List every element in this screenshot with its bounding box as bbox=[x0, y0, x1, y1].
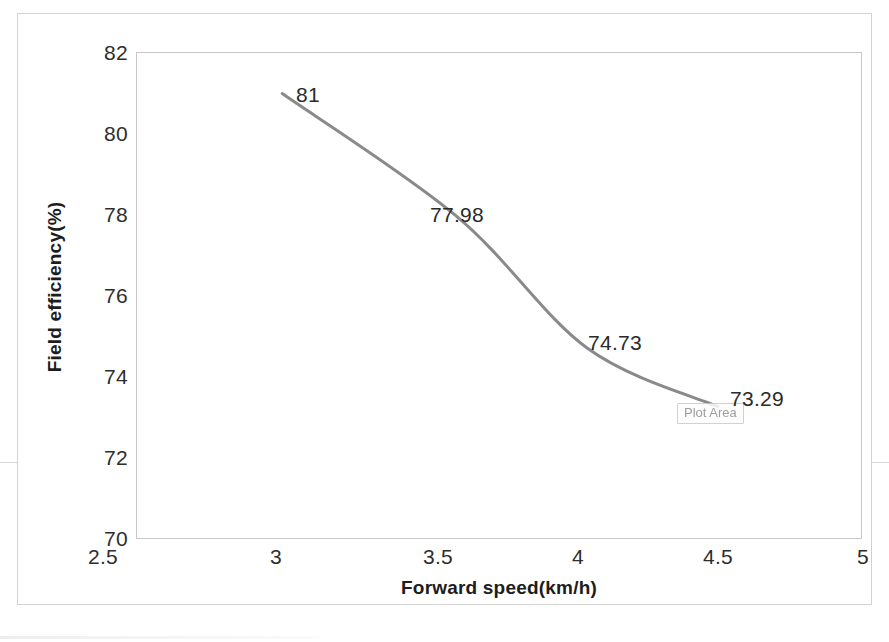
data-label: 77.98 bbox=[430, 204, 484, 225]
data-label: 81 bbox=[296, 84, 320, 105]
x-axis-tick: 4.5 bbox=[703, 546, 733, 567]
page-bottom-caption-artifact bbox=[0, 636, 320, 639]
x-axis-tick: 4 bbox=[572, 546, 584, 567]
y-axis-tick-labels: 82 80 78 76 74 72 70 bbox=[76, 14, 128, 606]
data-label: 73.29 bbox=[730, 388, 784, 409]
y-axis-tick: 78 bbox=[82, 204, 128, 225]
y-axis-tick: 80 bbox=[82, 123, 128, 144]
y-axis-tick: 72 bbox=[82, 447, 128, 468]
line-series-svg bbox=[137, 53, 863, 540]
x-axis-tick: 3.5 bbox=[423, 546, 453, 567]
x-axis-title: Forward speed(km/h) bbox=[136, 577, 862, 599]
data-label: 74.73 bbox=[588, 332, 642, 353]
x-axis-tick: 2.5 bbox=[88, 546, 118, 567]
data-line[interactable] bbox=[282, 94, 718, 407]
x-axis-tick: 5 bbox=[857, 546, 869, 567]
y-axis-title: Field efficiency(%) bbox=[44, 192, 66, 382]
y-axis-tick: 76 bbox=[82, 285, 128, 306]
y-axis-tick: 82 bbox=[82, 42, 128, 63]
plot-area[interactable]: Plot Area bbox=[136, 52, 862, 539]
x-axis-tick: 3 bbox=[270, 546, 282, 567]
y-axis-tick: 74 bbox=[82, 366, 128, 387]
chart-frame[interactable]: 82 80 78 76 74 72 70 Field efficiency(%)… bbox=[17, 13, 872, 605]
x-axis-tick-labels: 2.5 3 3.5 4 4.5 5 bbox=[18, 546, 873, 576]
